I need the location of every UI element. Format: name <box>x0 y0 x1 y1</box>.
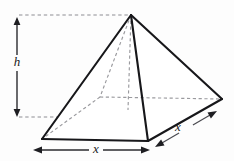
height-dimension: h <box>14 17 21 117</box>
pyramid-figure: h x x <box>0 0 234 161</box>
base-width-dimension: x <box>33 141 150 156</box>
depth-arrowhead-upper-right <box>208 111 217 118</box>
pyramid-diagram-canvas: h x x <box>0 0 234 161</box>
height-arrowhead-top <box>14 17 21 25</box>
pyramid-solid <box>42 15 222 141</box>
pyramid-face-left <box>42 15 148 141</box>
base-depth-label: x <box>174 119 181 134</box>
depth-dimension-line-upper <box>193 115 210 125</box>
depth-dimension-line-lower <box>162 133 179 143</box>
depth-arrowhead-lower-left <box>155 140 164 147</box>
base-width-label: x <box>92 141 99 156</box>
height-arrowhead-bottom <box>14 109 21 117</box>
width-arrowhead-right <box>141 146 150 153</box>
height-label: h <box>14 54 21 69</box>
width-arrowhead-left <box>33 146 42 153</box>
